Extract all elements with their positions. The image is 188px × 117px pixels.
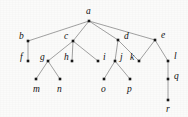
tree-node-h: [71, 60, 74, 63]
tree-node-label-d: d: [124, 31, 129, 41]
tree-node-j: [114, 60, 117, 63]
tree-node-label-o: o: [101, 84, 106, 94]
tree-node-n: [59, 78, 62, 81]
tree-node-o: [103, 78, 106, 81]
tree-edge-g-n: [48, 61, 60, 79]
tree-node-r: [167, 99, 170, 102]
tree-node-label-h: h: [64, 52, 69, 62]
tree-node-label-e: e: [161, 30, 165, 40]
tree-node-i: [97, 60, 100, 63]
tree-edge-j-p: [115, 61, 130, 79]
tree-edge-d-j: [115, 40, 118, 61]
tree-node-label-l: l: [174, 51, 177, 61]
tree-node-label-i: i: [103, 52, 106, 62]
tree-edge-c-h: [72, 41, 73, 61]
tree-node-d: [117, 39, 120, 42]
tree-node-label-a: a: [86, 6, 91, 16]
tree-edge-j-o: [104, 61, 115, 79]
tree-node-m: [35, 78, 38, 81]
tree-node-l: [167, 60, 170, 63]
tree-node-label-p: p: [126, 84, 132, 94]
tree-edge-c-g: [48, 41, 73, 61]
tree-node-label-j: j: [118, 52, 123, 62]
tree-edge-c-i: [73, 41, 98, 61]
tree-node-label-f: f: [20, 52, 24, 62]
nodes-layer: [27, 20, 170, 102]
tree-node-label-m: m: [33, 84, 40, 94]
tree-edge-a-d: [89, 21, 118, 40]
tree-node-e: [154, 39, 157, 42]
tree-node-p: [129, 78, 132, 81]
tree-node-label-k: k: [130, 52, 135, 62]
tree-graph-canvas: abcdefghijklmnopqr: [0, 0, 188, 117]
tree-node-c: [72, 40, 75, 43]
tree-edge-g-m: [36, 61, 48, 79]
tree-node-label-q: q: [174, 71, 179, 81]
tree-node-label-g: g: [40, 52, 45, 62]
tree-edge-a-e: [89, 21, 155, 40]
tree-diagram-figure: abcdefghijklmnopqr: [0, 0, 188, 117]
tree-node-a: [88, 20, 91, 23]
tree-node-f: [27, 60, 30, 63]
tree-edge-a-b: [28, 21, 89, 41]
tree-node-label-c: c: [64, 31, 69, 41]
tree-node-label-b: b: [19, 31, 24, 41]
tree-edge-e-k: [139, 40, 155, 61]
tree-node-label-r: r: [166, 104, 170, 114]
tree-node-b: [27, 40, 30, 43]
tree-edge-e-l: [155, 40, 168, 61]
tree-node-label-n: n: [57, 84, 62, 94]
tree-node-g: [47, 60, 50, 63]
tree-node-q: [167, 78, 170, 81]
tree-node-k: [138, 60, 141, 63]
